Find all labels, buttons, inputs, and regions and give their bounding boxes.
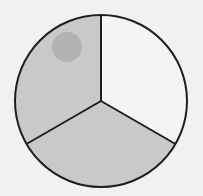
smudge-mark (52, 32, 82, 62)
fraction-circle (0, 0, 203, 196)
fraction-diagram (0, 0, 203, 196)
